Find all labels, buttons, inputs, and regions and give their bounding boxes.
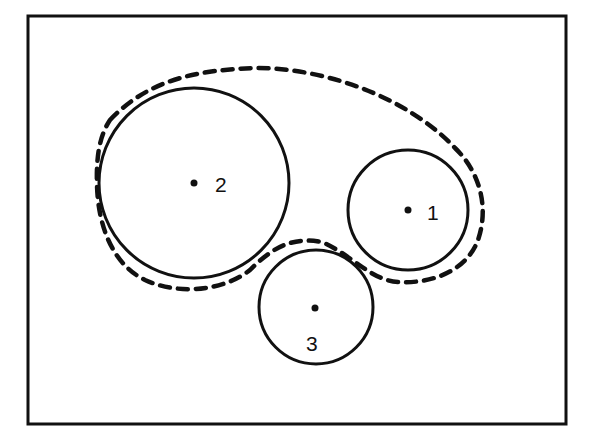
frame-border bbox=[28, 16, 566, 424]
center-point-1 bbox=[405, 207, 412, 214]
circle-3: 3 bbox=[259, 250, 373, 364]
center-point-3 bbox=[312, 305, 319, 312]
circle-label-2: 2 bbox=[215, 173, 227, 196]
circle-2: 2 bbox=[99, 88, 289, 278]
center-point-2 bbox=[191, 180, 198, 187]
circle-1: 1 bbox=[348, 150, 468, 270]
diagram-canvas: 2 1 3 bbox=[0, 0, 590, 440]
circle-label-3: 3 bbox=[306, 332, 318, 355]
circle-label-1: 1 bbox=[427, 201, 439, 224]
